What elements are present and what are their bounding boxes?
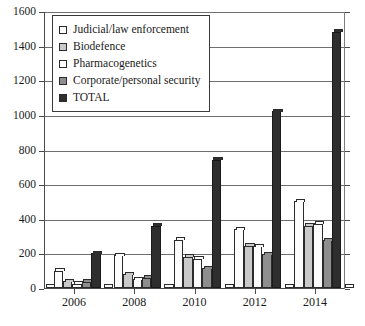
bar xyxy=(332,32,341,288)
bar-stub xyxy=(345,284,354,288)
x-axis-label: 2010 xyxy=(165,296,225,308)
bar xyxy=(253,246,262,288)
bar-top-cap xyxy=(255,244,264,247)
y-axis-tick-right xyxy=(345,289,350,290)
bar xyxy=(133,279,142,288)
bar-top-cap xyxy=(125,272,134,275)
legend: Judicial/law enforcement Biodefence Phar… xyxy=(52,15,210,112)
bar xyxy=(183,257,192,288)
bar-top-cap xyxy=(176,237,185,240)
bar-top-cap xyxy=(236,227,245,230)
y-axis-tick-right xyxy=(345,254,350,255)
x-axis-label: 2008 xyxy=(104,296,164,308)
x-axis-label: 2006 xyxy=(44,296,104,308)
bar xyxy=(91,253,100,288)
legend-swatch-corporate-personal-security xyxy=(59,77,67,85)
y-axis-label: 1400 xyxy=(0,41,36,53)
bar xyxy=(82,282,91,288)
gridline xyxy=(45,185,345,186)
y-axis-tick xyxy=(39,47,44,48)
y-axis-tick-right xyxy=(345,47,350,48)
legend-item[interactable]: Corporate/personal security xyxy=(59,72,200,89)
y-axis-tick xyxy=(39,254,44,255)
bar-stub xyxy=(164,284,173,288)
bar xyxy=(142,278,151,288)
y-axis-tick xyxy=(39,220,44,221)
y-axis-label: 200 xyxy=(0,248,36,260)
bar xyxy=(304,226,313,288)
gridline xyxy=(45,151,345,152)
bar xyxy=(63,281,72,288)
bar-top-cap xyxy=(65,279,74,282)
y-axis-tick-right xyxy=(345,220,350,221)
y-axis-label: 600 xyxy=(0,179,36,191)
bar xyxy=(174,240,183,288)
bar-stub xyxy=(225,284,234,288)
bar-top-cap xyxy=(296,199,305,202)
legend-swatch-biodefence xyxy=(59,43,67,51)
y-axis-label: 1200 xyxy=(0,75,36,87)
legend-label: Judicial/law enforcement xyxy=(73,24,189,36)
bar xyxy=(123,274,132,288)
legend-label: Biodefence xyxy=(73,41,125,53)
bar-top-cap xyxy=(194,256,203,259)
x-axis-tick xyxy=(315,289,316,294)
y-axis-label: 1000 xyxy=(0,110,36,122)
x-axis-tick xyxy=(255,289,256,294)
x-axis-label: 2012 xyxy=(225,296,285,308)
y-axis-tick xyxy=(39,151,44,152)
bar-top-cap xyxy=(185,254,194,257)
bar xyxy=(202,268,211,288)
y-axis-tick-right xyxy=(345,185,350,186)
bar-top-cap xyxy=(213,157,222,160)
y-axis-tick xyxy=(39,185,44,186)
bar-top-cap xyxy=(153,223,162,226)
bar-stub xyxy=(104,284,113,288)
bar-stub xyxy=(46,284,55,288)
y-axis-tick-right xyxy=(345,12,350,13)
y-axis-tick-right xyxy=(345,81,350,82)
bar-top-cap xyxy=(273,109,282,112)
gridline xyxy=(45,116,345,117)
bar xyxy=(234,229,243,288)
y-axis-tick xyxy=(39,81,44,82)
bar-top-cap xyxy=(55,268,64,271)
y-axis-tick-right xyxy=(345,116,350,117)
bar xyxy=(262,254,271,288)
bar xyxy=(212,160,221,288)
y-axis-label: 0 xyxy=(0,283,36,295)
legend-swatch-pharmacogenetics xyxy=(59,60,67,68)
legend-swatch-total xyxy=(59,94,67,102)
x-axis-tick xyxy=(134,289,135,294)
bar xyxy=(114,255,123,288)
bar xyxy=(323,240,332,288)
bar xyxy=(272,111,281,288)
legend-label: Pharmacogenetics xyxy=(73,58,157,70)
bar xyxy=(244,246,253,288)
bar-top-cap xyxy=(115,253,124,256)
bar xyxy=(72,284,81,288)
legend-swatch-judicial-law-enforcement xyxy=(59,26,67,34)
y-axis-label: 1600 xyxy=(0,6,36,18)
bar xyxy=(151,226,160,288)
x-axis-tick xyxy=(74,289,75,294)
legend-item[interactable]: TOTAL xyxy=(59,89,200,106)
legend-item[interactable]: Pharmacogenetics xyxy=(59,55,200,72)
y-axis-label: 800 xyxy=(0,145,36,157)
bar-top-cap xyxy=(334,29,343,32)
y-axis-tick xyxy=(39,289,44,290)
y-axis-label: 400 xyxy=(0,214,36,226)
legend-label: Corporate/personal security xyxy=(73,75,200,87)
bar-chart: 02004006008001000120014001600 2006200820… xyxy=(0,0,365,326)
bar-top-cap xyxy=(93,251,102,254)
gridline xyxy=(45,12,345,13)
bar-top-cap xyxy=(315,221,324,224)
bar xyxy=(193,259,202,288)
legend-item[interactable]: Biodefence xyxy=(59,38,200,55)
legend-label: TOTAL xyxy=(73,92,110,104)
bar xyxy=(313,224,322,288)
x-axis-label: 2014 xyxy=(285,296,345,308)
x-axis-tick xyxy=(195,289,196,294)
y-axis-tick xyxy=(39,116,44,117)
legend-item[interactable]: Judicial/law enforcement xyxy=(59,21,200,38)
